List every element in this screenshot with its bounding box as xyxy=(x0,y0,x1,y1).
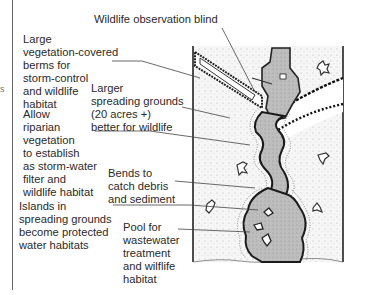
label-pool-wastewater-treatment: Pool for wastewater treatment and wilfli… xyxy=(123,221,180,286)
label-islands-protected-habitats: Islands in spreading grounds become prot… xyxy=(19,200,112,252)
label-bends-catch-debris: Bends to catch debris and sediment xyxy=(108,167,175,206)
label-riparian-vegetation: Allow riparian vegetation to establish a… xyxy=(23,108,97,199)
label-larger-spreading-grounds: Larger spreading grounds (20 acres +) be… xyxy=(91,82,184,134)
label-wildlife-observation-blind: Wildlife observation blind xyxy=(94,13,218,26)
